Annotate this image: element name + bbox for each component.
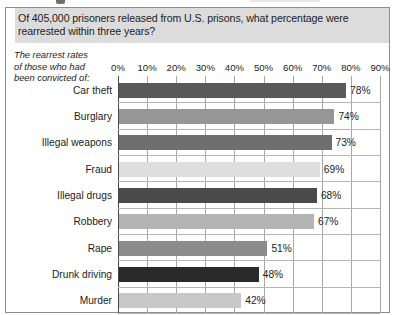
category-label-car-theft: Car theft	[0, 85, 112, 96]
artifact-mark	[56, 0, 65, 4]
value-label-fraud: 69%	[324, 164, 344, 175]
bar-rape	[119, 241, 267, 256]
chart-title: Of 405,000 prisoners released from U.S. …	[18, 12, 373, 38]
clipped-top-artifact	[0, 0, 396, 5]
x-tick-90: 90%	[370, 62, 389, 73]
bar-illegal-weapons	[119, 135, 332, 150]
x-tick-70: 70%	[312, 62, 331, 73]
x-tick-30: 30%	[196, 62, 215, 73]
value-label-murder: 42%	[245, 295, 265, 306]
value-label-illegal-weapons: 73%	[336, 137, 356, 148]
bar-burglary	[119, 109, 334, 124]
value-label-drunk-driving: 48%	[263, 269, 283, 280]
bar-robbery	[119, 214, 314, 229]
artifact-strip	[250, 0, 320, 2]
row-separator	[118, 102, 380, 103]
row-separator	[118, 129, 380, 130]
x-tick-50: 50%	[254, 62, 273, 73]
x-tick-20: 20%	[167, 62, 186, 73]
category-label-robbery: Robbery	[0, 216, 112, 227]
x-axis-tick-labels: 0%10%20%30%40%50%60%70%80%90%	[0, 62, 396, 76]
row-separator	[118, 287, 380, 288]
bar-drunk-driving	[119, 267, 259, 282]
x-tick-80: 80%	[341, 62, 360, 73]
row-separator	[118, 234, 380, 235]
row-separator	[118, 181, 380, 182]
row-separator	[118, 313, 380, 314]
category-label-illegal-weapons: Illegal weapons	[0, 137, 112, 148]
value-label-illegal-drugs: 68%	[321, 190, 341, 201]
value-label-robbery: 67%	[318, 216, 338, 227]
x-tick-10: 10%	[138, 62, 157, 73]
bar-murder	[119, 293, 241, 308]
bar-illegal-drugs	[119, 188, 317, 203]
category-label-fraud: Fraud	[0, 164, 112, 175]
x-tick-60: 60%	[283, 62, 302, 73]
value-label-car-theft: 78%	[350, 85, 370, 96]
category-label-drunk-driving: Drunk driving	[0, 269, 112, 280]
row-separator	[118, 155, 380, 156]
title-banner-gutter	[6, 8, 15, 43]
bar-car-theft	[119, 83, 346, 98]
value-label-rape: 51%	[271, 243, 291, 254]
category-label-murder: Murder	[0, 295, 112, 306]
x-tick-0: 0%	[111, 62, 125, 73]
gridline-90	[380, 76, 381, 313]
value-label-burglary: 74%	[338, 111, 358, 122]
bar-fraud	[119, 162, 320, 177]
category-label-illegal-drugs: Illegal drugs	[0, 190, 112, 201]
caption-line-1: The rearrest rates	[14, 50, 114, 62]
row-separator	[118, 260, 380, 261]
row-separator	[118, 208, 380, 209]
category-label-rape: Rape	[0, 243, 112, 254]
chart-figure: Of 405,000 prisoners released from U.S. …	[0, 0, 396, 315]
category-label-burglary: Burglary	[0, 111, 112, 122]
x-tick-40: 40%	[225, 62, 244, 73]
